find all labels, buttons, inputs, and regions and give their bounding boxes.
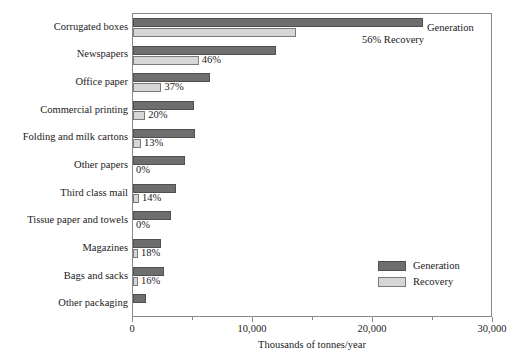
generation-bar: [133, 129, 195, 138]
x-axis-tick: [252, 317, 253, 322]
category-label-slot: Tissue paper and towels: [0, 206, 128, 234]
chart-legend: GenerationRecovery: [378, 259, 484, 291]
recovery-rate-label: 14%: [142, 192, 161, 204]
legend-swatch-icon: [378, 277, 406, 287]
x-axis-tick-label: 10,000: [238, 323, 267, 335]
bar-group: 0%: [133, 152, 491, 180]
generation-bar: [133, 18, 423, 27]
category-label: Other packaging: [0, 297, 128, 309]
annotation-recovery-percent: 56% Recovery: [362, 34, 424, 46]
x-axis-minor-tick: [432, 317, 433, 320]
category-label-slot: Other papers: [0, 151, 128, 179]
category-label-slot: Magazines: [0, 234, 128, 262]
bar-group: 13%: [133, 125, 491, 153]
category-label-slot: Bags and sacks: [0, 262, 128, 290]
recovery-bar: [133, 83, 161, 92]
legend-item: Recovery: [378, 275, 484, 288]
recovery-rate-label: 20%: [148, 109, 167, 121]
legend-label: Generation: [413, 260, 460, 272]
x-axis-tick: [492, 317, 493, 322]
x-axis-minor-tick: [192, 317, 193, 320]
x-axis-tick-label: 20,000: [358, 323, 387, 335]
legend-swatch-icon: [378, 261, 406, 271]
category-label: Folding and milk cartons: [0, 131, 128, 143]
x-axis-minor-tick: [312, 317, 313, 320]
category-label-slot: Other packaging: [0, 289, 128, 317]
bar-group: 20%: [133, 97, 491, 125]
category-label-slot: Folding and milk cartons: [0, 124, 128, 152]
recovery-rate-label: 0%: [136, 164, 150, 176]
recovery-rate-label: 46%: [202, 54, 221, 66]
category-label: Other papers: [0, 159, 128, 171]
recovery-bar: [133, 249, 138, 258]
category-label: Commercial printing: [0, 104, 128, 116]
recovery-bar: [133, 194, 139, 203]
category-label: Bags and sacks: [0, 270, 128, 282]
x-axis-tick-label: 0: [129, 323, 134, 335]
recovery-bar: [133, 139, 141, 148]
category-label-slot: Corrugated boxes: [0, 13, 128, 41]
recovery-rate-label: 13%: [144, 137, 163, 149]
bar-chart-figure: Corrugated boxesNewspapersOffice paperCo…: [0, 0, 525, 361]
recovery-bar: [133, 56, 199, 65]
category-label: Tissue paper and towels: [0, 214, 128, 226]
category-label: Corrugated boxes: [0, 21, 128, 33]
category-label-slot: Newspapers: [0, 41, 128, 69]
category-label: Magazines: [0, 242, 128, 254]
bar-group: 46%: [133, 42, 491, 70]
recovery-rate-label: 18%: [141, 247, 160, 259]
bar-group: [133, 290, 491, 318]
category-label-slot: Third class mail: [0, 179, 128, 207]
category-label: Newspapers: [0, 48, 128, 60]
recovery-bar: [133, 277, 138, 286]
x-axis-title: Thousands of tonnes/year: [132, 339, 492, 351]
recovery-bar: [133, 28, 296, 37]
bar-group: 0%: [133, 207, 491, 235]
generation-bar: [133, 294, 146, 303]
recovery-rate-label: 0%: [136, 219, 150, 231]
category-label: Office paper: [0, 76, 128, 88]
annotation-generation: Generation: [427, 22, 474, 34]
recovery-bar: [133, 111, 145, 120]
bar-group: 14%: [133, 180, 491, 208]
bar-group: 37%: [133, 69, 491, 97]
category-label-slot: Commercial printing: [0, 96, 128, 124]
x-axis-tick: [372, 317, 373, 322]
category-label: Third class mail: [0, 187, 128, 199]
legend-label: Recovery: [413, 276, 453, 288]
recovery-rate-label: 16%: [141, 275, 160, 287]
x-axis-tick: [132, 317, 133, 322]
legend-item: Generation: [378, 259, 484, 272]
category-axis-labels: Corrugated boxesNewspapersOffice paperCo…: [0, 13, 128, 317]
x-axis-tick-label: 30,000: [478, 323, 507, 335]
category-label-slot: Office paper: [0, 68, 128, 96]
recovery-rate-label: 37%: [164, 81, 183, 93]
